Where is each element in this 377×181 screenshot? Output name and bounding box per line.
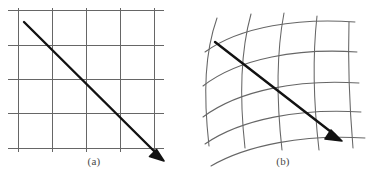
arrow-head	[325, 130, 342, 141]
grid-curve-vertical	[349, 22, 353, 148]
panel-a: (a)	[0, 0, 188, 181]
grid-curve-horizontal	[203, 51, 357, 86]
figure-root: (a) (b)	[0, 0, 377, 181]
grid-curve-vertical	[278, 13, 284, 150]
panel-a-canvas	[0, 0, 188, 160]
panel-a-caption: (a)	[0, 154, 188, 168]
grid-curve-vertical	[242, 14, 251, 148]
panel-b-canvas	[189, 0, 377, 160]
grid-curvilinear	[203, 13, 365, 166]
arrow-shaft	[24, 22, 158, 155]
panel-b: (b)	[189, 0, 377, 181]
grid-curve-vertical	[206, 18, 217, 146]
grid-curve-horizontal	[203, 82, 359, 117]
panel-b-caption: (b)	[189, 154, 377, 168]
arrow-straight	[24, 22, 164, 161]
